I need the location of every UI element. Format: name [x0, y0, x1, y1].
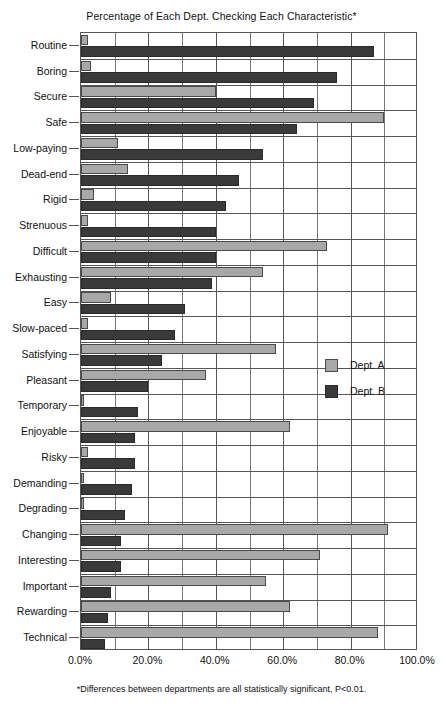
legend-swatch-b — [325, 385, 338, 398]
row-separator — [81, 188, 416, 189]
legend-item-dept-b: Dept. B — [325, 378, 417, 404]
bar-row — [81, 110, 416, 136]
y-axis-label-satisfying: Satisfying — [21, 348, 67, 360]
bar-dept-a-exhausting — [81, 267, 263, 277]
bar-dept-b-degrading — [81, 510, 125, 520]
y-axis-label-changing: Changing — [22, 528, 67, 540]
bar-dept-b-routine — [81, 46, 374, 56]
y-axis-tick — [69, 483, 79, 484]
bar-dept-b-demanding — [81, 484, 132, 494]
y-axis-label-technical: Technical — [23, 631, 67, 643]
row-separator — [81, 162, 416, 163]
y-axis-label-pleasant: Pleasant — [26, 374, 67, 386]
y-axis-tick — [69, 586, 79, 587]
y-axis-category-labels: RoutineBoringSecureSafeLow-payingDead-en… — [0, 32, 80, 650]
y-axis-tick — [69, 225, 79, 226]
bar-row — [81, 239, 416, 265]
y-axis-tick — [69, 508, 79, 509]
bar-dept-b-pleasant — [81, 381, 148, 391]
y-axis-label-low-paying: Low-paying — [13, 142, 67, 154]
y-axis-label-degrading: Degrading — [19, 502, 67, 514]
bar-dept-b-strenuous — [81, 227, 216, 237]
bar-dept-b-interesting — [81, 561, 121, 571]
bar-dept-b-boring — [81, 72, 337, 82]
bar-dept-b-important — [81, 587, 111, 597]
row-separator — [81, 522, 416, 523]
x-axis-label-0: 0.0% — [68, 654, 92, 666]
y-axis-tick — [69, 328, 79, 329]
bar-dept-a-difficult — [81, 241, 327, 251]
y-axis-label-rewarding: Rewarding — [17, 605, 67, 617]
row-separator — [81, 419, 416, 420]
y-axis-label-demanding: Demanding — [13, 477, 67, 489]
bar-dept-b-low-paying — [81, 149, 263, 159]
bar-row — [81, 213, 416, 239]
chart-footnote: *Differences between departments are all… — [0, 684, 443, 694]
row-separator — [81, 85, 416, 86]
row-separator — [81, 548, 416, 549]
row-separator — [81, 265, 416, 266]
bar-row — [81, 574, 416, 600]
bar-dept-a-slow-paced — [81, 318, 88, 328]
y-axis-tick — [69, 71, 79, 72]
row-separator — [81, 445, 416, 446]
row-separator — [81, 239, 416, 240]
bar-dept-a-boring — [81, 61, 91, 71]
bar-row — [81, 188, 416, 214]
y-axis-tick — [69, 199, 79, 200]
y-axis-label-interesting: Interesting — [18, 554, 67, 566]
y-axis-label-difficult: Difficult — [33, 245, 67, 257]
bar-dept-a-pleasant — [81, 370, 206, 380]
bar-dept-a-temporary — [81, 395, 84, 405]
y-axis-label-boring: Boring — [37, 65, 67, 77]
bar-dept-b-enjoyable — [81, 433, 135, 443]
bar-dept-a-dead-end — [81, 164, 128, 174]
y-axis-tick — [69, 302, 79, 303]
bar-dept-a-satisfying — [81, 344, 276, 354]
y-axis-tick — [69, 534, 79, 535]
y-axis-label-risky: Risky — [41, 451, 67, 463]
bar-row — [81, 136, 416, 162]
x-axis-label-100: 100.0% — [399, 654, 435, 666]
bar-row — [81, 59, 416, 85]
bar-dept-b-technical — [81, 639, 105, 649]
x-axis-tick-labels: 0.0%20.0%40.0%60.0%80.0%100.0% — [0, 654, 443, 672]
legend-swatch-a — [325, 359, 338, 372]
y-axis-label-important: Important — [23, 580, 67, 592]
bar-row — [81, 291, 416, 317]
legend-label: Dept. A — [350, 359, 384, 371]
bar-dept-b-changing — [81, 536, 121, 546]
bar-dept-a-risky — [81, 447, 88, 457]
row-separator — [81, 471, 416, 472]
y-axis-tick — [69, 174, 79, 175]
plot-area — [80, 32, 417, 650]
bar-row — [81, 316, 416, 342]
legend-item-dept-a: Dept. A — [325, 352, 417, 378]
x-axis-label-20: 20.0% — [133, 654, 163, 666]
legend-label: Dept. B — [350, 385, 385, 397]
bar-row — [81, 445, 416, 471]
row-separator — [81, 342, 416, 343]
y-axis-tick — [69, 380, 79, 381]
bar-dept-b-exhausting — [81, 278, 212, 288]
bar-row — [81, 522, 416, 548]
y-axis-label-exhausting: Exhausting — [15, 271, 67, 283]
row-separator — [81, 574, 416, 575]
row-separator — [81, 625, 416, 626]
bar-dept-a-interesting — [81, 550, 320, 560]
y-axis-label-temporary: Temporary — [17, 399, 67, 411]
bar-dept-b-rigid — [81, 201, 226, 211]
bar-row — [81, 497, 416, 523]
y-axis-tick — [69, 122, 79, 123]
row-separator — [81, 110, 416, 111]
bar-row — [81, 85, 416, 111]
bar-rows — [81, 33, 416, 649]
bar-row — [81, 471, 416, 497]
bar-dept-a-rigid — [81, 189, 94, 199]
chart-title: Percentage of Each Dept. Checking Each C… — [0, 10, 443, 22]
bar-row — [81, 419, 416, 445]
bar-dept-b-rewarding — [81, 613, 108, 623]
bar-dept-b-slow-paced — [81, 330, 175, 340]
y-axis-label-routine: Routine — [31, 39, 67, 51]
bar-dept-a-strenuous — [81, 215, 88, 225]
